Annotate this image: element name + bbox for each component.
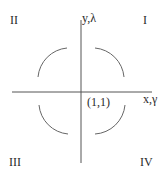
arc-upper-right bbox=[95, 48, 124, 77]
vertical-axis-label: y,λ bbox=[82, 12, 96, 24]
quadrant-label-II: II bbox=[10, 14, 18, 26]
quadrant-label-IV: IV bbox=[140, 156, 153, 168]
arc-upper-left bbox=[38, 48, 67, 77]
point-label: (1,1) bbox=[87, 96, 110, 108]
quadrant-label-I: I bbox=[143, 14, 147, 26]
quadrant-diagram: II I y,λ x,γ (1,1) III IV bbox=[0, 0, 168, 177]
arc-lower-right bbox=[95, 105, 125, 134]
arc-lower-left bbox=[39, 105, 68, 134]
quadrant-label-III: III bbox=[9, 156, 21, 168]
horizontal-axis-label: x,γ bbox=[143, 93, 157, 105]
